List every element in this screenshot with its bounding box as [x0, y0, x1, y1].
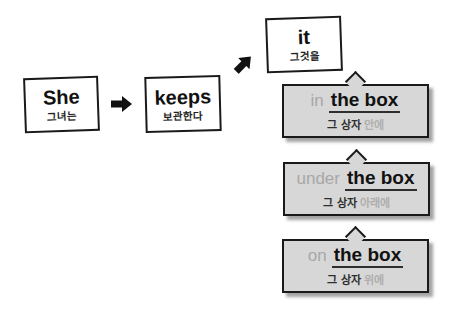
object-box: it 그것을: [265, 16, 343, 74]
preposition-option-under: underthe box 그 상자아래에: [283, 162, 430, 216]
translation-preposition: 아래에: [360, 197, 390, 209]
option-translation: 그 상자위에: [327, 271, 383, 287]
translation-main: 그 상자: [323, 197, 356, 209]
translation-preposition: 위에: [364, 274, 384, 286]
object-phrase: the box: [329, 90, 401, 113]
preposition-word: in: [311, 91, 324, 110]
option-phrase: underthe box: [296, 168, 416, 191]
preposition-word: under: [296, 169, 339, 188]
object-translation: 그것을: [289, 51, 319, 63]
up-right-arrow-icon: [230, 51, 256, 77]
object-phrase: the box: [332, 245, 404, 268]
verb-word: keeps: [154, 86, 211, 108]
verb-translation: 보관한다: [163, 110, 203, 122]
translation-main: 그 상자: [327, 119, 360, 131]
subject-translation: 그녀는: [47, 111, 77, 123]
preposition-option-on: onthe box 그 상자위에: [282, 239, 429, 293]
preposition-word: on: [308, 246, 327, 265]
right-arrow-icon: [111, 96, 132, 112]
translation-preposition: 안에: [364, 119, 384, 131]
subject-word: She: [43, 87, 80, 109]
translation-main: 그 상자: [327, 274, 360, 286]
option-translation: 그 상자아래에: [323, 194, 389, 210]
object-word: it: [297, 27, 310, 48]
preposition-option-in: inthe box 그 상자안에: [282, 84, 429, 138]
sentence-diagram: She 그녀는 keeps 보관한다 it 그것을 inthe box 그 상자…: [0, 0, 458, 315]
option-translation: 그 상자안에: [327, 116, 383, 132]
subject-box: She 그녀는: [23, 76, 100, 134]
option-phrase: inthe box: [311, 90, 401, 113]
object-phrase: the box: [345, 168, 417, 191]
verb-box: keeps 보관한다: [144, 75, 221, 133]
option-phrase: onthe box: [308, 245, 403, 268]
